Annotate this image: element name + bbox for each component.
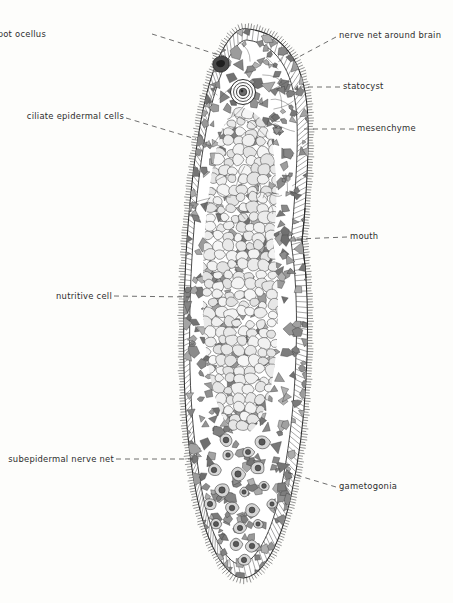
label-mesenchyme: mesenchyme bbox=[357, 124, 416, 132]
label-nutritive-cell: nutritive cell bbox=[56, 292, 112, 300]
label-subepidermal-nerve-net: subepidermal nerve net bbox=[8, 455, 114, 463]
label-ciliate-epidermal-cells: ciliate epidermal cells bbox=[27, 112, 124, 120]
statocyst bbox=[231, 80, 256, 105]
pigment-spot-ocellus bbox=[213, 56, 229, 72]
organism-diagram bbox=[0, 0, 453, 603]
leader-ciliate-epidermal-cells bbox=[126, 118, 196, 139]
label-mouth: mouth bbox=[350, 232, 378, 240]
leader-nerve-net-around-brain bbox=[293, 37, 336, 60]
label-gametogonia: gametogonia bbox=[339, 482, 397, 490]
leader-mouth bbox=[297, 237, 347, 239]
label-pigment-spot-ocellus: pigment-spot ocellus bbox=[0, 30, 46, 38]
label-nerve-net-around-brain: nerve net around brain bbox=[339, 31, 441, 39]
leader-pigment-spot-ocellus bbox=[152, 34, 222, 56]
label-statocyst: statocyst bbox=[343, 82, 384, 90]
